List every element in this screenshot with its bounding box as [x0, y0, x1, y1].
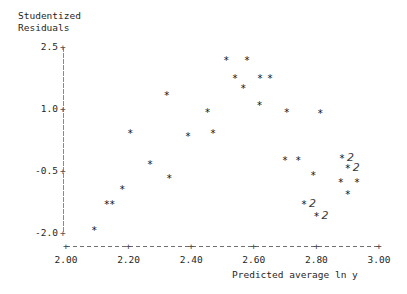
data-point-marker: * — [109, 200, 115, 210]
data-point-marker: * — [147, 160, 153, 170]
data-point-marker: * — [301, 200, 307, 210]
data-point-marker: * — [91, 226, 97, 236]
data-point-marker: * — [210, 129, 216, 139]
x-axis-tick-label: 2.60 — [238, 254, 270, 265]
x-axis-line — [66, 246, 380, 247]
data-point-marker: * — [317, 109, 323, 119]
data-point-marker: * — [240, 84, 246, 94]
data-point-marker: * — [185, 132, 191, 142]
data-point-marker: * — [232, 74, 238, 84]
y-axis-line — [63, 47, 64, 234]
x-axis-tick-label: 2.80 — [300, 254, 332, 265]
data-point-marker: * — [345, 190, 351, 200]
data-point-marker: * — [310, 171, 316, 181]
x-axis-label: Predicted average ln y — [232, 269, 358, 280]
data-point-marker: * — [119, 185, 125, 195]
x-axis-tick-mark: + — [376, 240, 382, 251]
x-axis-tick-mark: + — [63, 240, 69, 251]
y-axis-label-line-1: Studentized — [18, 10, 81, 21]
y-axis-tick-label: 2.5 — [16, 41, 58, 52]
overlap-count-label: 2 — [309, 198, 316, 209]
y-axis-tick-mark: + — [60, 41, 66, 52]
data-point-marker: * — [267, 74, 273, 84]
overlap-count-label: 2 — [353, 162, 360, 173]
x-axis-tick-label: 2.00 — [50, 254, 82, 265]
data-point-marker: * — [345, 164, 351, 174]
data-point-marker: * — [313, 212, 319, 222]
data-point-marker: * — [204, 108, 210, 118]
y-axis-tick-mark: + — [60, 165, 66, 176]
y-axis-tick-label: -2.0 — [16, 227, 58, 238]
data-point-marker: * — [256, 101, 262, 111]
data-point-marker: * — [354, 178, 360, 188]
x-axis-tick-label: 2.40 — [175, 254, 207, 265]
x-axis-tick-mark: + — [126, 240, 132, 251]
data-point-marker: * — [338, 178, 344, 188]
x-axis-tick-label: 3.00 — [363, 254, 395, 265]
data-point-marker: * — [166, 174, 172, 184]
x-axis-tick-mark: + — [313, 240, 319, 251]
y-axis-label-line-2: Residuals — [18, 22, 69, 33]
data-point-marker: * — [223, 56, 229, 66]
y-axis-tick-mark: + — [60, 103, 66, 114]
data-point-marker: * — [127, 129, 133, 139]
data-point-marker: * — [257, 74, 263, 84]
x-axis-tick-mark: + — [188, 240, 194, 251]
y-axis-tick-label: 1.0 — [16, 103, 58, 114]
data-point-marker: * — [295, 156, 301, 166]
scatter-plot-figure: Studentized Residuals 2.5+1.0+-0.5+-2.0+… — [0, 0, 407, 294]
data-point-marker: * — [244, 56, 250, 66]
y-axis-tick-label: -0.5 — [16, 165, 58, 176]
x-axis-tick-label: 2.20 — [113, 254, 145, 265]
overlap-count-label: 2 — [321, 210, 328, 221]
y-axis-tick-mark: + — [60, 227, 66, 238]
data-point-marker: * — [284, 108, 290, 118]
data-point-marker: * — [282, 156, 288, 166]
data-point-marker: * — [164, 91, 170, 101]
x-axis-tick-mark: + — [251, 240, 257, 251]
